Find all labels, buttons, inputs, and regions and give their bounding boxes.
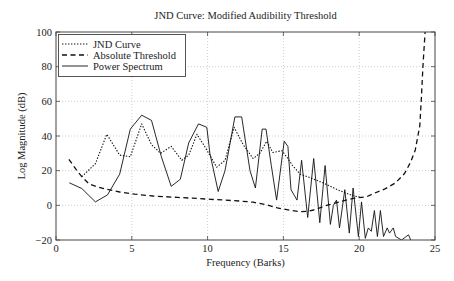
chart: JND Curve: Modified Audibility Threshold…	[0, 0, 454, 281]
legend-label-power-spectrum: Power Spectrum	[93, 61, 163, 72]
y-tick-label: 100	[36, 27, 52, 38]
series-power-spectrum	[69, 115, 410, 240]
y-axis-label: Log Magnitude (dB)	[16, 92, 28, 179]
y-tick-label: 0	[47, 200, 52, 211]
x-tick-label: 0	[53, 243, 58, 254]
y-tick-label: 40	[42, 131, 53, 142]
y-tick-labels: −20020406080100	[36, 27, 52, 246]
x-tick-label: 15	[278, 243, 289, 254]
legend: JND Curve Absolute Threshold Power Spect…	[59, 35, 186, 77]
x-tick-label: 10	[202, 243, 213, 254]
legend-label-absolute-threshold: Absolute Threshold	[93, 50, 177, 61]
y-tick-label: 60	[42, 96, 53, 107]
x-tick-label: 5	[129, 243, 134, 254]
x-tick-labels: 0510152025	[53, 243, 440, 254]
series-jnd-curve	[82, 124, 361, 197]
x-tick-label: 20	[354, 243, 365, 254]
chart-title: JND Curve: Modified Audibility Threshold	[154, 10, 337, 21]
legend-label-jnd-curve: JND Curve	[93, 39, 141, 50]
x-axis-label: Frequency (Barks)	[206, 257, 285, 269]
y-tick-label: 20	[42, 165, 53, 176]
x-tick-label: 25	[430, 243, 441, 254]
y-tick-label: 80	[42, 61, 53, 72]
y-tick-label: −20	[36, 235, 52, 246]
